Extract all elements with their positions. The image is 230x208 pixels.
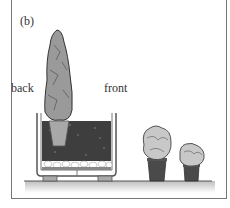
conifer-tree [45,30,73,120]
large-shrub [143,126,171,181]
small-shrub [180,143,204,181]
planting-illustration [0,0,230,208]
inner-pot [49,121,69,146]
ground-shadow [25,181,215,193]
planter-box [37,113,116,181]
